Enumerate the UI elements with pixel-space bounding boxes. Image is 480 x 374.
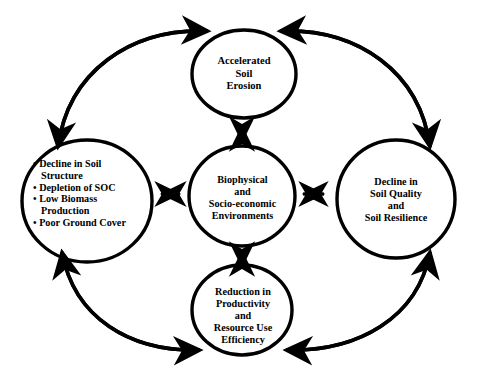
arc-right-to-top [280,31,430,147]
node-circle-right[interactable] [337,140,455,258]
outer-arc-connectors: top --> right --> bottom --> bottom --> [58,31,430,350]
arc-bottom-to-left [62,252,200,350]
node-circle-left[interactable] [22,140,152,262]
diagram-graphics: top --> right --> bottom --> bottom --> [0,0,480,374]
arc-bottom-to-right [286,252,430,350]
node-circle-center[interactable] [189,146,295,246]
diagram-canvas: top --> right --> bottom --> bottom --> … [0,0,480,374]
arc-top-to-left [58,31,208,147]
node-circle-top[interactable] [192,30,296,118]
node-circle-bottom[interactable] [192,265,292,355]
